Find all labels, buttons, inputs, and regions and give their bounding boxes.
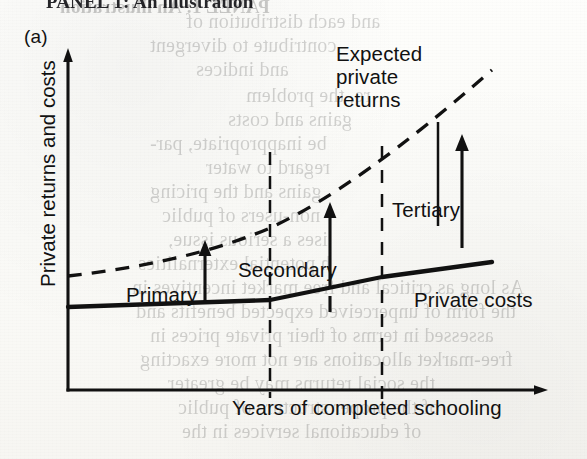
panel-label: (a) xyxy=(24,26,48,48)
running-head: PANEL 1: An illustration xyxy=(46,0,253,13)
y-axis-label: Private returns and costs xyxy=(36,67,60,287)
primary-segment-label: Primary xyxy=(126,283,197,306)
secondary-segment-label: Secondary xyxy=(238,258,337,281)
x-axis-label: Years of completed schooling xyxy=(232,396,502,419)
returns-label-line-2: private xyxy=(336,65,422,88)
returns-label-line-3: returns xyxy=(336,88,422,111)
scan-grain-texture xyxy=(0,0,587,459)
tertiary-segment-label: Tertiary xyxy=(392,198,460,221)
expected-private-returns-label: Expected private returns xyxy=(336,42,422,111)
scanned-page: and each distribution ofcontribute to di… xyxy=(0,0,587,459)
returns-label-line-1: Expected xyxy=(336,42,422,65)
private-costs-label: Private costs xyxy=(414,288,533,311)
